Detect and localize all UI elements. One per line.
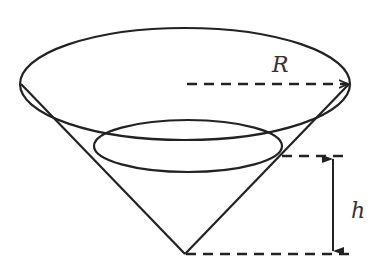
cone-right-side <box>185 84 349 254</box>
cone-diagram: R h <box>0 0 379 264</box>
height-label: h <box>351 198 365 223</box>
liquid-surface-ellipse <box>94 120 282 172</box>
cone-left-side <box>21 84 185 254</box>
cone-top-ellipse <box>20 28 350 140</box>
radius-label: R <box>271 52 289 77</box>
